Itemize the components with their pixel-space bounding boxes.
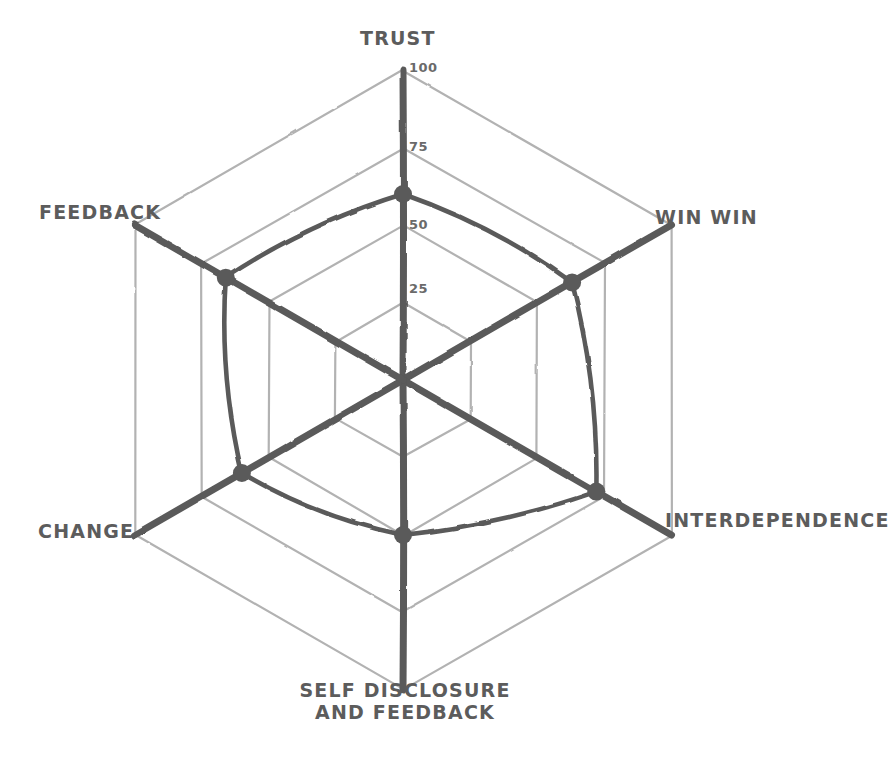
axis-label-win-win: WIN WIN bbox=[655, 207, 758, 229]
axis-label-self-disclosure-line2: AND FEEDBACK bbox=[290, 702, 520, 724]
axis-label-self-disclosure-line1: SELF DISCLOSURE bbox=[290, 680, 520, 702]
axis-label-trust: TRUST bbox=[360, 28, 436, 50]
axis-spoke-0 bbox=[403, 70, 404, 380]
tick-label-100: 100 bbox=[409, 60, 438, 75]
radar-chart-canvas bbox=[0, 0, 892, 777]
tick-label-75: 75 bbox=[409, 139, 428, 154]
tick-label-50: 50 bbox=[409, 217, 428, 232]
data-point-marker bbox=[233, 464, 251, 482]
data-point-marker bbox=[217, 269, 235, 287]
axis-label-interdependence: INTERDEPENDENCE bbox=[665, 510, 890, 532]
data-point-marker bbox=[394, 185, 412, 203]
axis-label-self-disclosure-and-feedback: SELF DISCLOSURE AND FEEDBACK bbox=[290, 680, 520, 724]
axis-label-change: CHANGE bbox=[38, 521, 134, 543]
tick-label-25: 25 bbox=[409, 281, 428, 296]
axis-label-feedback: FEEDBACK bbox=[39, 202, 161, 224]
data-point-marker bbox=[563, 273, 581, 291]
data-point-marker bbox=[587, 483, 605, 501]
data-point-marker bbox=[394, 526, 412, 544]
radar-chart: TRUST WIN WIN INTERDEPENDENCE SELF DISCL… bbox=[0, 0, 892, 777]
data-polygon bbox=[224, 194, 596, 535]
data-series-outline bbox=[224, 194, 596, 535]
